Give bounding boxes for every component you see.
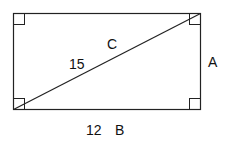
right-angle-mark-bottom-left	[14, 99, 25, 110]
diagonal-line	[14, 14, 201, 110]
right-angle-mark-top-left	[14, 14, 25, 25]
diagram-graphic	[0, 0, 227, 145]
diagonal-value-label: 15	[69, 57, 85, 71]
side-b-value-label: 12	[86, 123, 102, 137]
diagonal-label: C	[107, 37, 117, 51]
side-b-label: B	[115, 123, 124, 137]
right-angle-mark-top-right	[190, 14, 201, 25]
rectangle-diagonal-diagram: C 15 A 12 B	[0, 0, 227, 145]
right-angle-mark-bottom-right	[190, 99, 201, 110]
side-a-label: A	[208, 55, 217, 69]
